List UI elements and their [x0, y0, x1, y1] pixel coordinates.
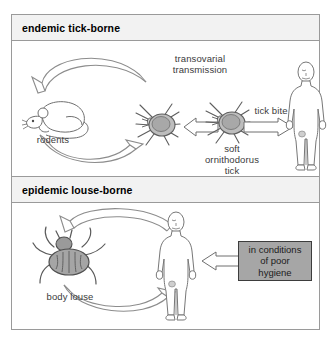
label-rodents: rodents: [20, 134, 86, 145]
label-body-louse: body louse: [28, 291, 112, 302]
label-soft-ornithodorus-tick: soft ornithodorus tick: [190, 143, 274, 176]
human-figure-lower-icon: [154, 211, 198, 323]
panel-header-endemic: endemic tick-borne: [12, 15, 319, 41]
panel-title-epidemic: epidemic louse-borne: [12, 184, 133, 196]
body-louse-icon: [32, 225, 108, 291]
panel-body-endemic: rodents transovarial transmission: [12, 41, 319, 177]
panel-body-epidemic: body louse: [12, 203, 319, 329]
panel-endemic-tick-borne: endemic tick-borne: [12, 15, 319, 177]
label-transovarial-transmission: transovarial transmission: [148, 53, 252, 75]
tick-left-icon: [134, 99, 182, 147]
panel-title-endemic: endemic tick-borne: [12, 22, 120, 34]
diagram-frame: endemic tick-borne: [11, 14, 320, 330]
panel-header-epidemic: epidemic louse-borne: [12, 177, 319, 203]
arrow-hygiene-to-human: [200, 251, 240, 271]
human-figure-upper-icon: [284, 61, 328, 171]
callout-poor-hygiene: in conditions of poor hygiene: [238, 241, 312, 281]
panel-epidemic-louse-borne: epidemic louse-borne: [12, 177, 319, 329]
